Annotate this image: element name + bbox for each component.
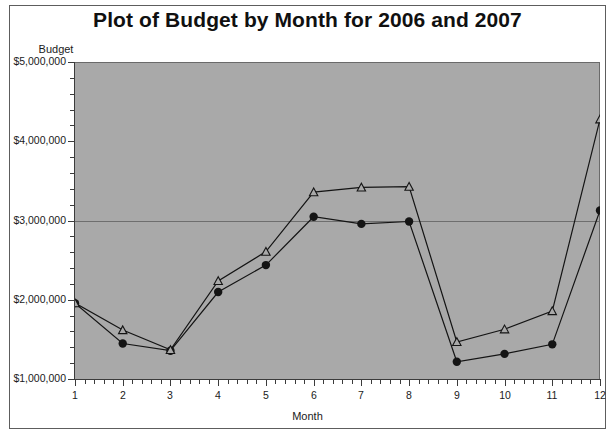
y-tick-label: $4,000,000 <box>0 134 66 146</box>
data-point-filled-circle <box>119 339 127 347</box>
x-tick-minor <box>113 380 114 384</box>
y-tick-minor <box>70 284 74 285</box>
x-tick-minor <box>485 380 486 384</box>
x-tick-major <box>75 380 76 386</box>
data-point-open-triangle <box>548 307 556 315</box>
y-tick-label: $1,000,000 <box>0 372 66 384</box>
y-tick-minor <box>70 125 74 126</box>
plot-canvas <box>75 63 600 380</box>
x-tick-minor <box>180 380 181 384</box>
data-point-filled-circle <box>309 213 317 221</box>
y-tick-minor <box>70 331 74 332</box>
x-tick-minor <box>247 380 248 384</box>
x-tick-minor <box>161 380 162 384</box>
y-tick-minor <box>70 316 74 317</box>
x-tick-minor <box>342 380 343 384</box>
x-tick-major <box>266 380 267 386</box>
y-tick-label: $2,000,000 <box>0 293 66 305</box>
x-tick-major <box>314 380 315 386</box>
y-tick-minor <box>70 157 74 158</box>
x-tick-minor <box>476 380 477 384</box>
data-point-open-triangle <box>596 115 600 123</box>
y-tick-major <box>68 300 74 301</box>
data-point-filled-circle <box>214 288 222 296</box>
data-point-open-triangle <box>214 277 222 285</box>
x-tick-minor <box>380 380 381 384</box>
x-tick-major <box>123 380 124 386</box>
x-tick-minor <box>428 380 429 384</box>
y-tick-minor <box>70 236 74 237</box>
x-tick-minor <box>438 380 439 384</box>
x-tick-minor <box>466 380 467 384</box>
x-tick-minor <box>581 380 582 384</box>
x-tick-label: 6 <box>294 389 334 401</box>
x-tick-major <box>218 380 219 386</box>
x-tick-label: 5 <box>246 389 286 401</box>
x-tick-minor <box>94 380 95 384</box>
x-tick-minor <box>275 380 276 384</box>
x-tick-minor <box>323 380 324 384</box>
series-line <box>75 119 600 350</box>
y-tick-minor <box>70 189 74 190</box>
page-title: Plot of Budget by Month for 2006 and 200… <box>0 8 615 32</box>
x-tick-minor <box>285 380 286 384</box>
y-tick-minor <box>70 252 74 253</box>
x-tick-major <box>600 380 601 386</box>
y-tick-major <box>68 379 74 380</box>
x-tick-major <box>409 380 410 386</box>
data-point-filled-circle <box>548 340 556 348</box>
x-tick-minor <box>562 380 563 384</box>
y-axis-line <box>74 62 75 380</box>
x-tick-label: 1 <box>55 389 95 401</box>
x-tick-label: 4 <box>198 389 238 401</box>
x-tick-minor <box>419 380 420 384</box>
y-tick-minor <box>70 94 74 95</box>
data-point-filled-circle <box>262 261 270 269</box>
x-tick-minor <box>142 380 143 384</box>
x-tick-minor <box>447 380 448 384</box>
y-axis-title: Budget <box>26 43 86 55</box>
y-tick-label: $5,000,000 <box>0 55 66 67</box>
y-tick-minor <box>70 110 74 111</box>
y-tick-minor <box>70 268 74 269</box>
x-tick-major <box>505 380 506 386</box>
series-2007 <box>75 115 600 353</box>
x-tick-label: 11 <box>532 389 572 401</box>
x-tick-minor <box>533 380 534 384</box>
x-tick-label: 3 <box>150 389 190 401</box>
data-point-filled-circle <box>357 220 365 228</box>
x-tick-minor <box>295 380 296 384</box>
x-tick-minor <box>209 380 210 384</box>
x-tick-minor <box>543 380 544 384</box>
x-tick-label: 12 <box>580 389 615 401</box>
y-tick-major <box>68 221 74 222</box>
y-tick-minor <box>70 205 74 206</box>
x-tick-label: 9 <box>437 389 477 401</box>
x-tick-minor <box>256 380 257 384</box>
series-line <box>75 210 600 361</box>
x-tick-major <box>457 380 458 386</box>
x-tick-minor <box>304 380 305 384</box>
x-tick-minor <box>495 380 496 384</box>
x-tick-major <box>552 380 553 386</box>
x-axis-title: Month <box>0 410 615 422</box>
x-tick-minor <box>524 380 525 384</box>
y-tick-major <box>68 62 74 63</box>
data-point-filled-circle <box>596 206 600 214</box>
data-point-filled-circle <box>500 350 508 358</box>
x-tick-label: 10 <box>485 389 525 401</box>
x-tick-minor <box>371 380 372 384</box>
y-tick-minor <box>70 173 74 174</box>
y-tick-minor <box>70 363 74 364</box>
x-tick-minor <box>400 380 401 384</box>
x-tick-label: 8 <box>389 389 429 401</box>
x-tick-label: 7 <box>341 389 381 401</box>
data-point-filled-circle <box>405 217 413 225</box>
data-point-open-triangle <box>500 325 508 333</box>
x-tick-minor <box>199 380 200 384</box>
y-tick-minor <box>70 347 74 348</box>
x-tick-minor <box>333 380 334 384</box>
chart-figure: Plot of Budget by Month for 2006 and 200… <box>0 0 615 437</box>
x-axis-line <box>74 379 601 380</box>
x-tick-major <box>361 380 362 386</box>
